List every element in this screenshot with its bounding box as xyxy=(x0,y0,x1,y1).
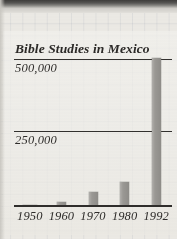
x-axis-tick-label-1992: 1992 xyxy=(143,209,168,224)
bar-1970 xyxy=(89,192,98,206)
scanned-page: Bible Studies in Mexico 500,000 250,000 … xyxy=(0,0,177,239)
x-axis-tick-label-1980: 1980 xyxy=(112,209,137,224)
bar-1992 xyxy=(152,58,161,206)
x-axis-baseline xyxy=(14,205,172,207)
x-axis-tick-label-1970: 1970 xyxy=(80,209,105,224)
bar-1980 xyxy=(120,182,129,206)
plot-area xyxy=(14,59,172,206)
x-axis-tick-label-1960: 1960 xyxy=(49,209,74,224)
bar-chart-figure: Bible Studies in Mexico 500,000 250,000 … xyxy=(0,0,177,239)
x-axis-tick-label-1950: 1950 xyxy=(17,209,42,224)
chart-title: Bible Studies in Mexico xyxy=(15,41,150,57)
